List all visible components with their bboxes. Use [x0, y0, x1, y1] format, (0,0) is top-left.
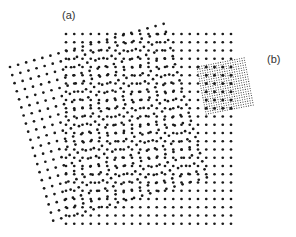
panel-label-a: (a)	[62, 9, 75, 21]
rotated-dot-lattice	[9, 22, 209, 222]
square-dot-lattice	[65, 33, 233, 225]
moire-figure	[0, 0, 296, 237]
panel-label-b: (b)	[267, 53, 280, 65]
